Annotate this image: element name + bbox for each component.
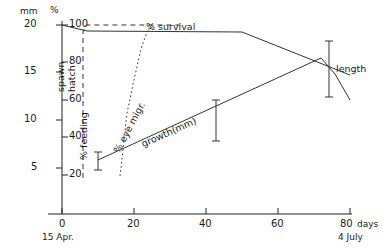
x-axis-start-date: 15 Apr.: [42, 233, 74, 242]
y-tick-pct-100: 100: [69, 19, 88, 29]
x-tick-20: 20: [127, 219, 140, 229]
y-axis-percent-header: %: [50, 6, 59, 15]
y-tick-mm-10: 10: [24, 114, 37, 124]
annotation-length: length: [336, 64, 366, 74]
y-tick-mm-5: 5: [31, 162, 37, 172]
series-survival: [62, 25, 350, 75]
y-tick-pct-20: 20: [69, 169, 82, 179]
y-tick-mm-20: 20: [24, 19, 37, 29]
x-tick-40: 40: [199, 219, 212, 229]
x-axis-end-date: 4 July: [338, 233, 363, 242]
y-axis-mm-header: mm: [20, 7, 38, 16]
error-bar-growth-early: [94, 152, 102, 170]
y-tick-mm-15: 15: [24, 66, 37, 76]
error-bar-length: [325, 41, 333, 97]
y-tick-pct-60: 60: [69, 94, 82, 104]
x-tick-0: 0: [59, 219, 65, 229]
annotation-survival: % survival: [146, 22, 195, 32]
x-axis-unit-label: days: [357, 220, 378, 229]
error-bar-growth-mid: [212, 100, 220, 141]
y-axis-mm-ticks: [56, 25, 62, 168]
x-tick-80: 80: [340, 219, 353, 229]
annotation-feeding: % feeding: [79, 112, 89, 160]
figure-canvas: mm % 20 15 10 5 100 80 60 40 20 0 20 40 …: [0, 0, 385, 250]
x-axis-ticks: [62, 208, 350, 214]
annotation-spawn: spawn: [56, 61, 66, 92]
annotation-hatch: hatch: [67, 65, 77, 92]
x-tick-60: 60: [271, 219, 284, 229]
y-axis-percent-ticks: [62, 25, 68, 175]
